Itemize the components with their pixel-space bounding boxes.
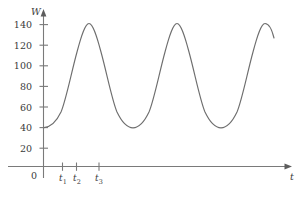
origin-label: 0 — [31, 171, 37, 181]
x-axis-arrow-icon — [285, 164, 293, 170]
chart-plot-area — [0, 0, 305, 204]
data-curve-w — [44, 24, 274, 128]
y-tick-label-80: 80 — [8, 82, 32, 92]
y-axis-arrow-icon — [41, 9, 47, 17]
x-tick-label-t3-sub: 3 — [99, 178, 103, 186]
y-tick-label-100: 100 — [6, 61, 32, 71]
x-tick-label-t3: t3 — [90, 174, 108, 185]
x-tick-label-t2-sub: 2 — [77, 178, 81, 186]
y-axis-title: W — [31, 7, 41, 17]
y-tick-label-140: 140 — [6, 20, 32, 30]
chart-container: 20 40 60 80 100 120 140 0 t1 t2 t3 W t — [0, 0, 305, 204]
y-tick-label-60: 60 — [8, 103, 32, 113]
y-tick-label-20: 20 — [8, 144, 32, 154]
y-tick-label-120: 120 — [6, 41, 32, 51]
x-tick-label-t1-sub: 1 — [63, 178, 67, 186]
x-axis-title: t — [290, 172, 294, 182]
y-tick-label-40: 40 — [8, 123, 32, 133]
x-tick-label-t2: t2 — [68, 174, 86, 185]
